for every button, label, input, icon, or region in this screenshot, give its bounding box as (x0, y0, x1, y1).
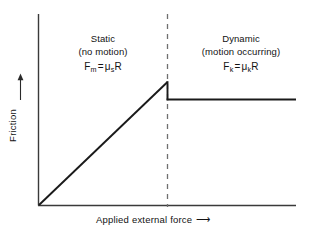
dynamic-eq-force-symbol: F (223, 61, 229, 72)
dynamic-eq-force-subscript: k (230, 65, 234, 74)
y-axis-label: Friction (7, 96, 18, 156)
static-eq-operator: = (97, 61, 105, 72)
static-region-subtitle: (no motion) (48, 45, 158, 58)
static-region-title: Static (48, 32, 158, 45)
static-eq-force-subscript: m (90, 65, 96, 74)
static-eq-mu-subscript: s (111, 65, 115, 74)
friction-graph-figure: Friction Applied external force⟶ Static … (0, 0, 310, 234)
right-arrow-icon: ⟶ (196, 214, 209, 225)
dynamic-region-label: Dynamic (motion occurring) Fk=μkR (178, 32, 304, 74)
dynamic-eq-normal-force-symbol: R (251, 61, 258, 72)
static-eq-mu-symbol: μ (105, 61, 111, 72)
dynamic-region-equation: Fk=μkR (178, 60, 304, 74)
dynamic-eq-mu-subscript: k (247, 65, 251, 74)
dynamic-region-subtitle: (motion occurring) (178, 45, 304, 58)
static-region-equation: Fm=μsR (48, 60, 158, 74)
static-eq-normal-force-symbol: R (114, 61, 121, 72)
y-axis-up-arrow-icon (18, 74, 24, 101)
x-axis-label: Applied external force⟶ (96, 214, 209, 225)
x-axis-label-text: Applied external force (96, 214, 192, 225)
static-region-label: Static (no motion) Fm=μsR (48, 32, 158, 74)
static-friction-ramp-line (39, 82, 168, 205)
dynamic-region-title: Dynamic (178, 32, 304, 45)
